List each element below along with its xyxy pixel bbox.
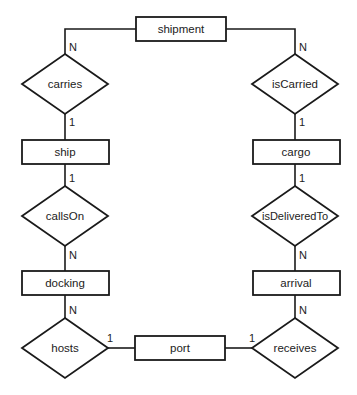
cardinality-label: N	[299, 304, 307, 316]
entity-cargo[interactable]: cargo	[253, 140, 340, 164]
relationship-callson[interactable]: callsOn	[22, 186, 108, 246]
cardinality-label: 1	[69, 116, 75, 128]
cardinality-label: 1	[249, 332, 255, 344]
er-diagram: shipment ship cargo docking arrival port…	[0, 0, 357, 395]
entity-label: ship	[54, 146, 75, 158]
cardinality-label: 1	[299, 172, 305, 184]
cardinality-label: N	[69, 304, 77, 316]
connector-lines	[65, 29, 295, 348]
cardinality-label: 1	[69, 172, 75, 184]
relationship-label: callsOn	[46, 210, 84, 222]
relationship-iscarried[interactable]: isCarried	[252, 54, 338, 114]
entity-shipment[interactable]: shipment	[136, 17, 226, 41]
relationship-carries[interactable]: carries	[22, 54, 108, 114]
entity-arrival[interactable]: arrival	[253, 271, 340, 295]
entity-label: arrival	[280, 277, 311, 289]
cardinality-label: 1	[107, 332, 113, 344]
cardinality-label: N	[299, 41, 307, 53]
relationship-isdeliveredto[interactable]: isDeliveredTo	[252, 186, 338, 246]
entity-label: cargo	[282, 146, 311, 158]
entity-label: docking	[45, 277, 85, 289]
entity-label: shipment	[158, 23, 205, 35]
cardinality-label: N	[299, 249, 307, 261]
relationship-label: hosts	[51, 342, 79, 354]
entity-docking[interactable]: docking	[22, 271, 109, 295]
cardinality-label: N	[69, 41, 77, 53]
relationship-label: isCarried	[272, 78, 318, 90]
relationship-receives[interactable]: receives	[252, 318, 338, 378]
line-shipment-iscarried	[226, 29, 295, 54]
relationship-hosts[interactable]: hosts	[22, 318, 108, 378]
relationship-label: isDeliveredTo	[262, 210, 328, 222]
relationship-label: receives	[274, 342, 317, 354]
cardinality-label: 1	[299, 116, 305, 128]
cardinality-label: N	[69, 249, 77, 261]
entity-ship[interactable]: ship	[22, 140, 109, 164]
entity-label: port	[170, 342, 191, 354]
relationship-label: carries	[48, 78, 83, 90]
entity-port[interactable]: port	[135, 336, 225, 360]
